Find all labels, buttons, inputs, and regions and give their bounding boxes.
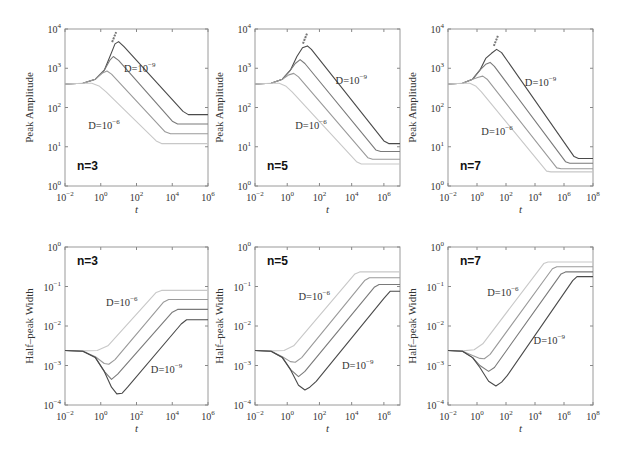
y-tick-label: 101 bbox=[238, 140, 252, 153]
curve-annotation: D=10−6 bbox=[299, 289, 331, 302]
x-tick-label: 104 bbox=[166, 190, 180, 203]
x-tick-label: 10−2 bbox=[56, 190, 74, 203]
series-line-d-1e-7 bbox=[448, 76, 593, 169]
x-tick-label: 102 bbox=[313, 409, 327, 422]
x-axis-title: t bbox=[135, 422, 139, 434]
y-tick-label: 10−4 bbox=[234, 398, 252, 411]
series-line-d-1e-9 bbox=[65, 42, 208, 115]
x-tick-label: 100 bbox=[470, 409, 484, 422]
plot-frame bbox=[65, 247, 208, 405]
y-tick-label: 104 bbox=[431, 22, 445, 35]
x-tick-label: 100 bbox=[470, 190, 484, 203]
panel-label: n=5 bbox=[267, 159, 288, 173]
series-line-d-1e-6 bbox=[255, 83, 400, 164]
x-tick-label: 10−2 bbox=[439, 409, 457, 422]
x-tick-label: 106 bbox=[377, 190, 391, 203]
peak-marker bbox=[112, 32, 116, 42]
figure-canvas: 10−2100102104106100101102103104tPeak Amp… bbox=[0, 0, 625, 451]
chart-panel-top-right: 10−2100102104106108100101102103104tPeak … bbox=[406, 22, 600, 215]
y-axis-title: Half–peak Width bbox=[213, 288, 225, 364]
series-line-d-1e-9 bbox=[65, 320, 208, 394]
y-tick-label: 10−1 bbox=[427, 280, 445, 293]
series-line-d-1e-8 bbox=[255, 60, 400, 152]
panel-label: n=5 bbox=[267, 254, 288, 268]
x-tick-label: 10−2 bbox=[246, 409, 264, 422]
x-tick-label: 104 bbox=[345, 190, 359, 203]
y-tick-label: 103 bbox=[238, 61, 252, 74]
panel-label: n=7 bbox=[460, 159, 481, 173]
series-line-d-1e-7 bbox=[448, 267, 593, 359]
x-tick-label: 102 bbox=[313, 190, 327, 203]
y-tick-label: 10−2 bbox=[234, 319, 252, 332]
curve-annotation: D=10−9 bbox=[525, 75, 557, 88]
curve-annotation: D=10−6 bbox=[106, 295, 138, 308]
x-tick-label: 102 bbox=[130, 190, 144, 203]
series-line-d-1e-8 bbox=[448, 62, 593, 163]
x-tick-label: 10−2 bbox=[439, 190, 457, 203]
x-tick-label: 108 bbox=[586, 190, 600, 203]
series-line-d-1e-9 bbox=[448, 49, 593, 158]
x-tick-label: 106 bbox=[377, 409, 391, 422]
peak-marker bbox=[303, 34, 307, 44]
series-line-d-1e-9 bbox=[255, 46, 400, 144]
y-axis-title: Peak Amplitude bbox=[406, 72, 418, 143]
y-tick-label: 10−1 bbox=[44, 280, 62, 293]
x-axis-title: t bbox=[519, 203, 523, 215]
series-line-d-1e-7 bbox=[255, 73, 400, 159]
y-tick-label: 102 bbox=[48, 101, 62, 114]
curve-annotation: D=10−6 bbox=[295, 118, 327, 131]
y-tick-label: 10−4 bbox=[427, 398, 445, 411]
chart-panel-bottom-middle: 10−210010210410610−410−310−210−1100tHalf… bbox=[213, 240, 400, 434]
chart-panel-top-left: 10−2100102104106100101102103104tPeak Amp… bbox=[23, 22, 215, 215]
x-tick-label: 10−2 bbox=[246, 190, 264, 203]
series-line-d-1e-6 bbox=[448, 262, 593, 351]
x-tick-label: 106 bbox=[557, 409, 571, 422]
curve-annotation: D=10−9 bbox=[124, 61, 156, 74]
curve-annotation: D=10−9 bbox=[151, 362, 183, 375]
x-tick-label: 104 bbox=[166, 409, 180, 422]
chart-panel-bottom-right: 10−210010210410610810−410−310−210−1100tH… bbox=[406, 240, 600, 434]
y-tick-label: 10−3 bbox=[427, 359, 445, 372]
chart-panel-top-middle: 10−2100102104106100101102103104tPeak Amp… bbox=[213, 22, 400, 215]
y-tick-label: 104 bbox=[48, 22, 62, 35]
y-tick-label: 100 bbox=[238, 240, 252, 253]
series-line-d-1e-8 bbox=[255, 285, 400, 377]
y-tick-label: 10−1 bbox=[234, 280, 252, 293]
y-axis-title: Half–peak Width bbox=[406, 288, 418, 364]
y-axis-title: Peak Amplitude bbox=[213, 72, 225, 143]
x-tick-label: 100 bbox=[94, 409, 108, 422]
y-tick-label: 101 bbox=[48, 140, 62, 153]
plot-frame bbox=[448, 247, 593, 405]
x-tick-label: 104 bbox=[528, 409, 542, 422]
y-tick-label: 100 bbox=[48, 240, 62, 253]
x-tick-label: 106 bbox=[201, 409, 215, 422]
curve-annotation: D=10−9 bbox=[534, 333, 566, 346]
curve-annotation: D=10−9 bbox=[342, 358, 374, 371]
x-axis-title: t bbox=[326, 203, 330, 215]
y-tick-label: 100 bbox=[431, 179, 445, 192]
x-tick-label: 10−2 bbox=[56, 409, 74, 422]
y-tick-label: 102 bbox=[238, 101, 252, 114]
x-tick-label: 100 bbox=[94, 190, 108, 203]
x-axis-title: t bbox=[135, 203, 139, 215]
y-tick-label: 104 bbox=[238, 22, 252, 35]
y-tick-label: 10−3 bbox=[44, 359, 62, 372]
y-tick-label: 100 bbox=[431, 240, 445, 253]
x-tick-label: 108 bbox=[586, 409, 600, 422]
curve-annotation: D=10−6 bbox=[481, 124, 513, 137]
x-tick-label: 106 bbox=[201, 190, 215, 203]
x-tick-label: 104 bbox=[345, 409, 359, 422]
y-tick-label: 10−2 bbox=[427, 319, 445, 332]
y-tick-label: 10−3 bbox=[234, 359, 252, 372]
x-axis-title: t bbox=[519, 422, 523, 434]
y-tick-label: 100 bbox=[48, 179, 62, 192]
x-tick-label: 100 bbox=[280, 409, 294, 422]
y-tick-label: 10−2 bbox=[44, 319, 62, 332]
x-axis-title: t bbox=[326, 422, 330, 434]
y-tick-label: 100 bbox=[238, 179, 252, 192]
y-axis-title: Peak Amplitude bbox=[23, 72, 35, 143]
x-tick-label: 100 bbox=[280, 190, 294, 203]
y-tick-label: 101 bbox=[431, 140, 445, 153]
curve-annotation: D=10−6 bbox=[487, 285, 519, 298]
x-tick-label: 102 bbox=[130, 409, 144, 422]
